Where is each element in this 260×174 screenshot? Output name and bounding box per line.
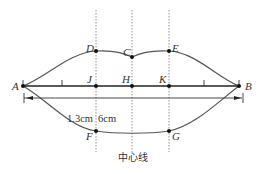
- point-k: [167, 84, 171, 88]
- label-g: G: [172, 130, 180, 142]
- label-b: B: [245, 80, 252, 92]
- point-b: [237, 84, 241, 88]
- label-f: F: [85, 130, 93, 142]
- dimension-label-1-3cm: 1.3cm: [67, 113, 93, 124]
- center-line-label: 中心线: [118, 151, 148, 163]
- point-g: [167, 129, 171, 133]
- point-d: [94, 49, 98, 53]
- point-f: [94, 129, 98, 133]
- point-a: [21, 84, 25, 88]
- arrow-left-icon: [26, 96, 33, 100]
- point-j: [94, 84, 98, 88]
- label-e: E: [171, 42, 179, 54]
- label-c: C: [123, 46, 131, 58]
- lip-shape-diagram: A B D C E J H K F G 1.3cm 6cm 中心线: [0, 0, 260, 174]
- label-k: K: [158, 73, 167, 85]
- label-a: A: [11, 80, 19, 92]
- diagram-canvas: A B D C E J H K F G 1.3cm 6cm 中心线: [0, 0, 260, 174]
- label-d: D: [85, 42, 94, 54]
- label-j: J: [87, 73, 93, 85]
- arrow-right-icon: [234, 96, 241, 100]
- lower-curve: [23, 86, 239, 133]
- point-h: [130, 84, 134, 88]
- point-e: [167, 49, 171, 53]
- label-h: H: [121, 73, 131, 85]
- dimension-label-6cm: 6cm: [98, 113, 116, 124]
- point-c: [130, 55, 134, 59]
